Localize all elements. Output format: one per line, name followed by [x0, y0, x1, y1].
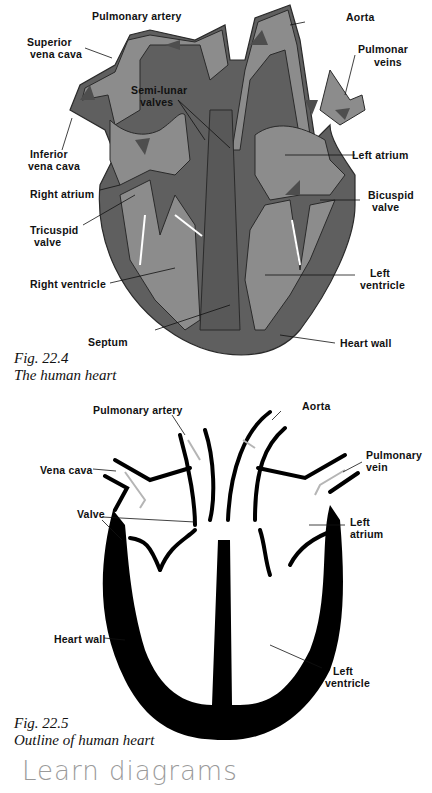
figure-caption-22-4: Fig. 22.4 The human heart: [14, 350, 117, 384]
label-valve-outline: Valve: [77, 508, 105, 520]
label-septum: Septum: [88, 336, 128, 348]
label-superior-vena-cava-2: vena cava: [30, 48, 82, 60]
label-left-atrium-outline-2: atrium: [350, 528, 383, 540]
label-left-atrium: Left atrium: [352, 149, 408, 161]
label-aorta: Aorta: [346, 11, 374, 23]
caption-title: The human heart: [14, 367, 117, 384]
label-heart-wall: Heart wall: [340, 337, 392, 349]
label-right-ventricle: Right ventricle: [30, 278, 106, 290]
label-left-ventricle-outline-2: ventricle: [325, 677, 370, 689]
label-bicuspid-valve-2: valve: [372, 201, 399, 213]
label-tricuspid-valve: Tricuspid: [30, 224, 78, 236]
label-inferior-vena-cava: Inferior: [30, 148, 68, 160]
label-superior-vena-cava: Superior: [27, 36, 72, 48]
label-pulmonary-veins: Pulmonar: [358, 43, 408, 55]
label-vena-cava-outline: Vena cava: [40, 464, 93, 476]
label-left-ventricle: Left: [370, 267, 390, 279]
figure-caption-22-5: Fig. 22.5 Outline of human heart: [14, 715, 154, 749]
label-tricuspid-valve-2: valve: [34, 236, 61, 248]
label-bicuspid-valve: Bicuspid: [368, 189, 414, 201]
label-heart-wall-outline: Heart wall: [54, 633, 106, 645]
label-left-ventricle-2: ventricle: [360, 279, 405, 291]
label-inferior-vena-cava-2: vena cava: [28, 160, 80, 172]
label-pulmonary-artery: Pulmonary artery: [92, 10, 182, 22]
label-pulmonary-veins-2: veins: [374, 56, 402, 68]
label-right-atrium: Right atrium: [30, 188, 94, 200]
label-semi-lunar-valves-2: valves: [140, 96, 173, 108]
label-aorta-outline: Aorta: [302, 400, 330, 412]
caption-title: Outline of human heart: [14, 732, 154, 749]
label-pulmonary-vein-outline: Pulmonary: [366, 449, 422, 461]
caption-number: Fig. 22.4: [14, 350, 117, 367]
label-semi-lunar-valves: Semi-lunar: [131, 84, 187, 96]
label-pulmonary-vein-outline-2: vein: [366, 461, 388, 473]
caption-number: Fig. 22.5: [14, 715, 154, 732]
label-left-ventricle-outline: Left: [333, 665, 353, 677]
label-left-atrium-outline: Left: [350, 516, 370, 528]
handwritten-note: Learn diagrams: [22, 756, 238, 786]
label-pulmonary-artery-outline: Pulmonary artery: [93, 404, 183, 416]
